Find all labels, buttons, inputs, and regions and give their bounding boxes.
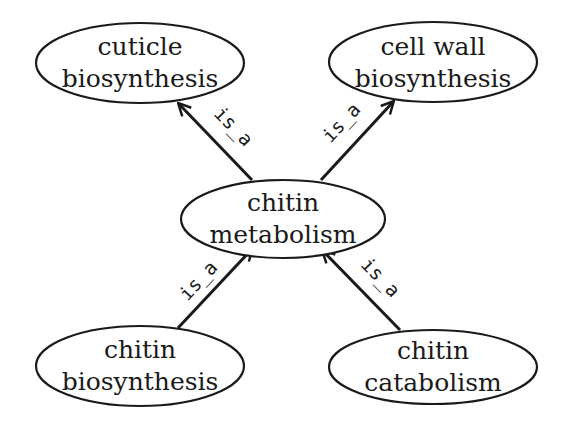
edge-catabolism-to-metabolism: is_a [323, 251, 405, 330]
edge-biosynthesis-to-metabolism: is_a [174, 249, 252, 328]
node-cell-wall-biosynthesis: cell wall biosynthesis [329, 22, 537, 102]
node-label-line1: cell wall [380, 32, 485, 61]
node-chitin-metabolism: chitin metabolism [181, 180, 385, 258]
node-label-line1: chitin [247, 188, 319, 217]
edge-metabolism-to-cell-wall: is_a [317, 98, 393, 180]
ontology-diagram: is_a is_a is_a is_a cuticle biosynthesis… [0, 0, 571, 424]
node-cuticle-biosynthesis: cuticle biosynthesis [36, 23, 244, 103]
node-chitin-biosynthesis: chitin biosynthesis [36, 326, 244, 406]
node-label-line2: biosynthesis [355, 64, 512, 93]
edge-metabolism-to-cuticle: is_a [179, 102, 258, 180]
node-label-line2: biosynthesis [62, 64, 219, 93]
edge-label-is-a: is_a [174, 256, 222, 305]
node-label-line1: cuticle [98, 32, 183, 61]
node-label-line2: biosynthesis [62, 367, 219, 396]
node-label-line2: metabolism [209, 220, 356, 249]
node-chitin-catabolism: chitin catabolism [329, 330, 537, 404]
node-label-line2: catabolism [364, 368, 502, 397]
node-label-line1: chitin [397, 336, 469, 365]
node-label-line1: chitin [104, 335, 176, 364]
